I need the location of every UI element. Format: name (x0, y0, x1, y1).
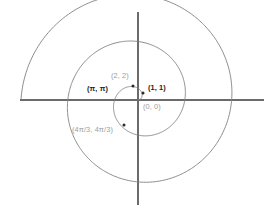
point-label-theta-1: (1, 1) (148, 84, 166, 91)
point-label-theta-4pi-over-3: (4π/3, 4π/3) (72, 126, 113, 133)
spiral-plot-figure: (0, 0) (1, 1) (2, 2) (π, π) (4π/3, 4π/3) (0, 0, 279, 219)
data-point-marker (132, 85, 135, 88)
archimedean-spiral-curve (21, 0, 232, 182)
data-point-marker (123, 124, 126, 127)
point-label-origin: (0, 0) (143, 103, 161, 110)
point-label-theta-2: (2, 2) (111, 72, 129, 79)
plot-canvas (0, 0, 279, 219)
data-point-marker (142, 92, 145, 95)
point-label-theta-pi: (π, π) (87, 85, 108, 92)
